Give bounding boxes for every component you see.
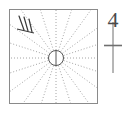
figure-root: 4 — [0, 0, 127, 113]
radial-ray — [62, 28, 97, 53]
radial-ray — [10, 60, 49, 73]
hatch-tick-mark — [24, 17, 28, 31]
radial-ray — [58, 10, 71, 51]
hatch-tick-mark — [29, 19, 32, 32]
radial-ray — [61, 64, 89, 103]
radial-ray — [10, 24, 50, 53]
radial-ray — [23, 64, 51, 103]
radial-ray — [64, 45, 98, 56]
radial-ray — [10, 43, 49, 56]
technical-drawing-canvas: 4 — [0, 0, 127, 113]
radial-ray — [41, 66, 53, 104]
hatch-tick-mark — [19, 16, 24, 30]
radial-ray — [62, 63, 97, 88]
radial-ray — [40, 10, 53, 51]
radial-ray — [10, 63, 50, 92]
annotation-numeral: 4 — [108, 7, 119, 32]
radial-ray — [64, 60, 98, 71]
radial-ray — [58, 66, 70, 104]
annotation-group: 4 — [104, 7, 122, 73]
